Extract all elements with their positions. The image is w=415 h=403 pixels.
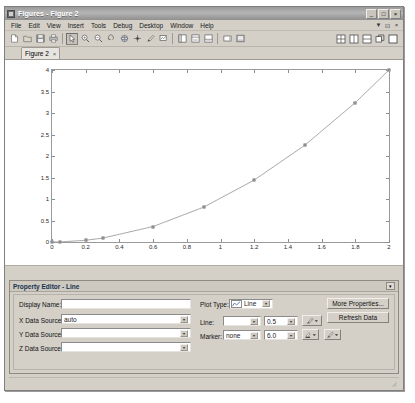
save-figure-icon[interactable] [34,33,46,45]
print-figure-icon[interactable] [47,33,59,45]
menu-insert[interactable]: Insert [65,22,88,29]
x-tick-label: 0.8 [183,244,191,250]
new-figure-icon[interactable] [8,33,20,45]
plot-browser-icon[interactable] [189,33,201,45]
rotate-3d-icon[interactable] [118,33,130,45]
property-editor-title: Property Editor - Line [13,283,79,290]
chevron-down-icon[interactable]: ▾ [180,330,188,337]
figures-window: Figures - Figure 2 _ □ × File Edit View … [4,6,404,391]
figure-tab-strip: Figure 2 × [5,47,403,60]
y-tick-label: 0 [46,239,49,245]
line-style-combo[interactable]: ▾ [223,316,261,326]
property-editor-icon[interactable] [202,33,214,45]
y-tick-label: 1 [46,196,49,202]
menu-edit[interactable]: Edit [25,22,43,29]
marker-face-color-picker[interactable] [302,329,319,340]
y-data-source-label: Y Data Source: [19,331,63,338]
tab-close-icon[interactable]: × [53,51,57,57]
menu-help[interactable]: Help [197,22,217,29]
y-data-source-combo[interactable]: ▾ [61,328,191,338]
document-minimize-button[interactable]: ▼ [375,22,382,29]
marker-size-combo[interactable]: 6.0 ▾ [264,330,298,340]
refresh-data-button[interactable]: Refresh Data [327,312,389,323]
data-point-marker[interactable] [51,241,54,244]
chevron-down-icon[interactable]: ▾ [250,318,258,325]
x-tick-label: 1.2 [250,244,258,250]
figure-canvas[interactable]: 00.511.522.533.5400.20.40.60.811.21.41.6… [5,60,403,266]
x-tick-label: 1 [219,244,222,250]
chevron-down-icon[interactable]: ▾ [262,300,270,307]
y-tick-label: 3 [46,110,49,116]
chevron-down-icon[interactable]: ▾ [287,332,295,339]
data-point-marker[interactable] [101,237,104,240]
figure-palette-icon[interactable] [176,33,188,45]
menu-view[interactable]: View [44,22,65,29]
undock-figure-icon[interactable] [374,33,386,45]
collapse-panel-button[interactable]: ▾ [386,282,395,290]
data-point-marker[interactable] [354,101,357,104]
more-properties-button[interactable]: More Properties... [327,298,389,309]
link-data-icon[interactable] [157,33,169,45]
maximize-button[interactable]: □ [378,9,389,19]
property-editor-header: Property Editor - Line ▾ [10,281,398,292]
data-point-marker[interactable] [59,240,62,243]
axes-plot-box[interactable]: 00.511.522.533.5400.20.40.60.811.21.41.6… [51,69,390,243]
chevron-down-icon[interactable]: ▾ [180,316,188,323]
tab-figure-2[interactable]: Figure 2 × [21,47,60,59]
y-tick-label: 3.5 [41,89,49,95]
data-point-marker[interactable] [202,206,205,209]
pan-icon[interactable] [105,33,117,45]
marker-edge-color-picker[interactable] [324,329,341,340]
menu-tools[interactable]: Tools [88,22,110,29]
open-file-icon[interactable] [21,33,33,45]
y-tick-label: 4 [46,67,49,73]
insert-colorbar-icon[interactable] [221,33,233,45]
minimize-button[interactable]: _ [366,9,377,19]
data-point-marker[interactable] [303,144,306,147]
tile-vertical-layout-icon[interactable] [348,33,360,45]
chevron-down-icon[interactable]: ▾ [180,344,188,351]
data-point-marker[interactable] [84,239,87,242]
plot-type-value: Line [244,299,262,308]
resize-grip-icon[interactable] [390,380,397,387]
x-tick-label: 0 [50,244,53,250]
tab-label: Figure 2 [25,50,49,57]
data-point-marker[interactable] [152,225,155,228]
menu-window[interactable]: Window [167,22,197,29]
insert-legend-icon[interactable] [234,33,246,45]
tile-grid-layout-icon[interactable] [335,33,347,45]
menu-debug[interactable]: Debug [110,22,136,29]
chevron-down-icon[interactable]: ▾ [250,332,258,339]
plot-type-combo[interactable]: Line ▾ [229,299,273,309]
data-point-marker[interactable] [253,179,256,182]
menu-file[interactable]: File [8,22,25,29]
window-title: Figures - Figure 2 [18,10,79,17]
chevron-down-icon[interactable]: ▾ [287,318,295,325]
x-data-source-combo[interactable]: auto ▾ [61,314,191,324]
line-width-combo[interactable]: 0.5 ▾ [264,316,298,326]
document-close-button[interactable]: × [393,22,400,29]
marker-label: Marker: [200,333,222,340]
data-point-marker[interactable] [388,69,391,72]
status-bar [9,377,399,388]
edit-plot-arrow-icon[interactable] [66,33,78,45]
toolbar-separator-2 [172,33,173,44]
marker-style-value: none [226,331,250,340]
menu-desktop[interactable]: Desktop [136,22,167,29]
zoom-out-icon[interactable] [92,33,104,45]
brush-icon[interactable] [144,33,156,45]
maximize-figure-icon[interactable] [387,33,399,45]
line-color-picker[interactable] [302,315,322,326]
close-button[interactable]: × [390,9,401,19]
zoom-in-icon[interactable] [79,33,91,45]
x-tick-label: 2 [387,244,390,250]
title-bar[interactable]: Figures - Figure 2 _ □ × [5,7,403,20]
tile-horizontal-layout-icon[interactable] [361,33,373,45]
display-name-input[interactable] [61,299,191,309]
data-cursor-icon[interactable] [131,33,143,45]
document-float-button[interactable]: ⊡ [384,22,391,29]
y-tick-label: 1.5 [41,175,49,181]
menu-bar: File Edit View Insert Tools Debug Deskto… [5,20,403,31]
z-data-source-combo[interactable]: ▾ [61,342,191,352]
marker-style-combo[interactable]: none ▾ [223,330,261,340]
